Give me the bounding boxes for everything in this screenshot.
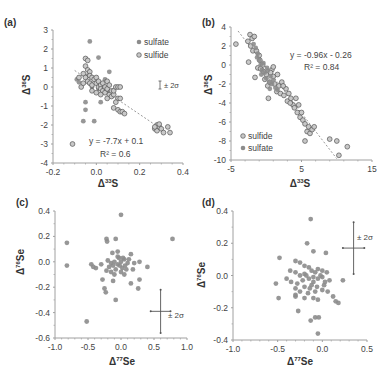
x-tick-label: 0.0 <box>115 342 127 352</box>
data-point-sulfide <box>282 93 287 98</box>
data-point-samples <box>300 278 305 283</box>
data-point-samples <box>65 240 70 245</box>
data-point-samples <box>105 239 110 244</box>
data-point-sulfide <box>246 39 251 44</box>
data-point-samples <box>276 296 281 301</box>
panel-c: (c) 0.40.20.0-0.2-0.4-0.6-1.0-0.50.00.51… <box>15 197 193 367</box>
x-tick-label: 5 <box>299 164 304 174</box>
data-point-samples <box>311 249 316 254</box>
data-point-samples <box>302 296 307 301</box>
y-tick-label: 3 <box>43 25 48 35</box>
sulfate-marker-icon <box>137 40 142 45</box>
y-tick-label: 0.4 <box>38 206 50 216</box>
legend-sulfide: sulfide <box>248 131 273 141</box>
data-point-samples <box>94 266 99 271</box>
data-point-sulfide <box>286 91 291 96</box>
data-point-sulfide <box>294 96 299 101</box>
data-point-sulfate <box>271 78 276 83</box>
x-tick-label: -5 <box>227 164 235 174</box>
data-point-sulfate <box>265 66 270 71</box>
data-point-samples <box>323 280 328 285</box>
data-point-samples <box>131 267 136 272</box>
y-tick-label: -1 <box>40 101 48 111</box>
data-point-samples <box>136 286 141 291</box>
data-point-samples <box>331 294 336 299</box>
data-point-sulfate <box>83 100 88 105</box>
data-point-sulfate <box>87 39 92 44</box>
y-tick-label: 2 <box>221 41 226 51</box>
data-point-samples <box>302 263 307 268</box>
data-point-samples <box>107 265 112 270</box>
data-point-samples <box>277 255 282 260</box>
data-point-samples <box>316 267 321 272</box>
data-point-samples <box>320 288 325 293</box>
data-point-samples <box>293 270 298 275</box>
data-point-samples <box>274 281 279 286</box>
data-point-samples <box>284 276 289 281</box>
data-point-samples <box>126 257 131 262</box>
data-point-samples <box>122 272 127 277</box>
panel-b: (b) 420-2-4-6-8-10-5515 Δ36S Δ33S y = -0… <box>202 17 377 189</box>
data-point-samples <box>316 315 321 320</box>
data-point-samples <box>320 268 325 273</box>
x-tick-label: 1.0 <box>181 342 193 352</box>
data-point-samples <box>293 294 298 299</box>
legend-sulfate: sulfate <box>144 37 169 47</box>
x-tick-label: -1.0 <box>226 344 241 354</box>
data-point-samples <box>65 263 70 268</box>
data-point-sulfide <box>288 101 293 106</box>
data-point-samples <box>316 331 321 336</box>
data-point-sulfide <box>118 85 123 90</box>
y-tick-label: -3 <box>40 139 48 149</box>
data-point-sulfide <box>234 42 239 47</box>
y-tick-label: -10 <box>214 155 227 165</box>
x-tick-label: -1.0 <box>48 342 63 352</box>
data-point-sulfide <box>168 130 173 135</box>
y-tick-label: -8 <box>218 136 226 146</box>
data-point-samples <box>311 280 316 285</box>
sulfate-marker-icon <box>241 146 246 151</box>
tick-labels: 0.40.20.0-0.2-0.4-1.0-0.50.00.5 <box>213 206 373 354</box>
panel-a: (a) 3210-1-2-3-4-0.20.00.20.4 Δ36S Δ33S … <box>4 17 189 189</box>
panel-label: (a) <box>4 17 16 28</box>
data-point-sulfide <box>152 125 157 130</box>
y-tick-label: -0.2 <box>35 282 50 292</box>
x-axis-label: Δ77Se <box>109 356 136 367</box>
data-point-samples <box>111 279 116 284</box>
data-point-sulfide <box>303 139 308 144</box>
data-point-sulfide <box>98 92 103 97</box>
data-point-sulfide <box>81 81 86 86</box>
data-point-samples <box>113 298 118 303</box>
data-point-sulfate <box>259 72 264 77</box>
data-point-sulfate <box>261 61 266 66</box>
data-point-sulfide <box>296 103 301 108</box>
data-point-sulfide <box>337 153 342 158</box>
y-tick-label: 0.2 <box>38 231 50 241</box>
data-point-sulfide <box>113 100 118 105</box>
data-points <box>65 212 175 323</box>
data-point-sulfide <box>246 60 251 65</box>
y-axis-label: Δ36S <box>203 74 214 95</box>
panel-label: (c) <box>16 197 28 208</box>
error-bar-a: ± 2σ <box>159 81 180 90</box>
legend-sulfide: sulfide <box>144 50 169 60</box>
data-point-sulfide <box>85 58 90 63</box>
data-point-sulfide <box>334 139 339 144</box>
data-point-samples <box>121 256 126 261</box>
y-tick-label: -2 <box>218 79 226 89</box>
data-point-sulfide <box>161 130 166 135</box>
data-point-samples <box>109 270 114 275</box>
data-point-samples <box>311 296 316 301</box>
data-point-samples <box>119 212 124 217</box>
data-point-sulfate <box>255 55 260 60</box>
x-tick-label: 0.0 <box>316 344 328 354</box>
y-tick-label: -6 <box>218 117 226 127</box>
x-tick-label: 0.2 <box>134 167 146 177</box>
data-point-sulfide <box>70 142 75 147</box>
x-tick-label: -0.5 <box>81 342 96 352</box>
data-point-samples <box>110 251 115 256</box>
data-point-samples <box>293 259 298 264</box>
data-point-samples <box>129 281 134 286</box>
data-point-samples <box>306 291 311 296</box>
data-point-samples <box>113 237 118 242</box>
